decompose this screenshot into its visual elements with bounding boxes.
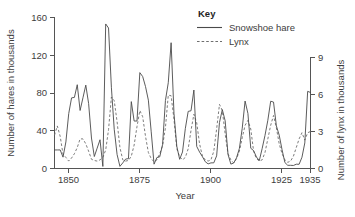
x-axis-tick-1925: 1925 bbox=[271, 174, 292, 185]
left-y-axis: 0 40 80 120 160 Number of hares in thous… bbox=[5, 12, 55, 174]
right-axis-tick-3: 3 bbox=[318, 126, 323, 137]
right-axis-title: Number of lynx in thousands bbox=[335, 60, 346, 181]
right-axis-tick-0: 0 bbox=[318, 163, 323, 174]
x-axis-tick-1875: 1875 bbox=[129, 174, 150, 185]
left-axis-tick-40: 40 bbox=[36, 125, 47, 136]
right-y-axis: 0 3 6 9 Number of lynx in thousands bbox=[311, 52, 347, 180]
left-axis-title: Number of hares in thousands bbox=[5, 29, 16, 157]
x-axis-title: Year bbox=[175, 190, 194, 201]
legend-title: Key bbox=[198, 8, 216, 19]
series-line-snowshoe-hare bbox=[55, 24, 311, 166]
x-axis-tick-1850: 1850 bbox=[58, 174, 79, 185]
x-axis-tick-1935: 1935 bbox=[299, 174, 320, 185]
right-axis-tick-6: 6 bbox=[318, 89, 323, 100]
left-axis-tick-120: 120 bbox=[31, 50, 47, 61]
x-axis-tick-1900: 1900 bbox=[200, 174, 221, 185]
hare-lynx-population-chart: 0 40 80 120 160 Number of hares in thous… bbox=[0, 0, 355, 217]
legend-label-lynx: Lynx bbox=[229, 36, 249, 47]
left-axis-tick-0: 0 bbox=[42, 163, 47, 174]
legend: Key Snowshoe hare Lynx bbox=[197, 8, 295, 47]
chart-canvas: 0 40 80 120 160 Number of hares in thous… bbox=[0, 0, 355, 217]
plot-series-group bbox=[55, 24, 311, 166]
x-axis: 1850 1875 1900 1925 1935 Year bbox=[55, 169, 321, 202]
left-axis-tick-80: 80 bbox=[36, 87, 47, 98]
right-axis-tick-9: 9 bbox=[318, 52, 323, 63]
left-axis-tick-160: 160 bbox=[31, 12, 47, 23]
legend-label-snowshoe-hare: Snowshoe hare bbox=[229, 22, 295, 33]
